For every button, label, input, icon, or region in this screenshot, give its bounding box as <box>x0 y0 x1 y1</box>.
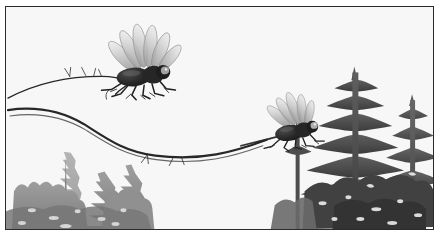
picture-frame <box>5 6 434 230</box>
artwork-canvas <box>6 7 433 229</box>
illustration-scene <box>0 0 440 238</box>
paper-texture <box>6 7 433 229</box>
